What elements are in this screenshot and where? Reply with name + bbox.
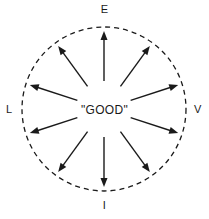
axis-label-right: V (194, 104, 202, 115)
arrow-head (101, 178, 108, 187)
radial-arrow (58, 132, 87, 172)
radial-arrow (101, 31, 108, 81)
arrow-head (30, 84, 40, 91)
arrow-head (169, 84, 179, 91)
arrow-head (142, 163, 150, 172)
radial-diagram-figure: "GOOD" E V I L (0, 0, 209, 219)
radial-arrow (30, 84, 78, 100)
radial-arrow (131, 84, 179, 100)
arrow-head (58, 163, 66, 172)
arrow-shaft (131, 87, 171, 100)
radial-arrow (131, 118, 179, 134)
arrow-shaft (131, 118, 171, 131)
center-label: "GOOD" (0, 103, 209, 117)
radial-arrow (120, 132, 149, 172)
radial-arrow (101, 137, 108, 187)
arrow-shaft (63, 132, 88, 166)
axis-label-bottom: I (0, 200, 209, 211)
radial-arrow (58, 46, 87, 86)
arrow-shaft (120, 52, 145, 86)
radial-arrow (120, 46, 149, 86)
arrow-shaft (37, 87, 77, 100)
arrow-shaft (37, 118, 77, 131)
arrow-head (30, 127, 40, 134)
arrow-head (58, 46, 66, 55)
arrow-head (142, 46, 150, 55)
arrow-shaft (120, 132, 145, 166)
radial-arrow (30, 118, 78, 134)
arrow-head (101, 31, 108, 40)
axis-label-top: E (0, 4, 209, 15)
axis-label-left: L (6, 104, 12, 115)
arrow-shaft (63, 52, 88, 86)
arrow-head (169, 127, 179, 134)
